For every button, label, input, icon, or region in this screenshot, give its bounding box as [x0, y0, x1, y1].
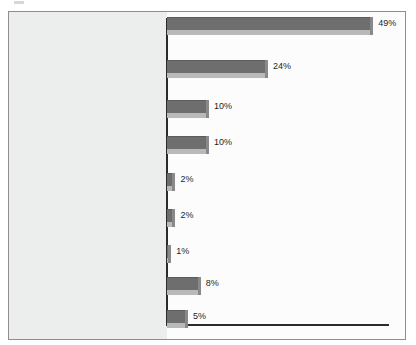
- bar-end-cap: [172, 173, 175, 191]
- value-label: 1%: [176, 246, 189, 256]
- bar: [167, 100, 209, 119]
- bar-end-cap: [265, 60, 268, 78]
- bar-end-cap: [370, 17, 373, 35]
- bar-shadow: [167, 73, 268, 78]
- bar-end-cap: [185, 310, 188, 328]
- bar-shadow: [167, 30, 373, 35]
- bar-end-cap: [172, 209, 175, 227]
- bar: [167, 173, 175, 192]
- bar-end-cap: [206, 136, 209, 154]
- bar-face: [167, 17, 373, 31]
- bar-face: [167, 136, 209, 150]
- bar-face: [167, 100, 209, 114]
- value-label: 24%: [273, 61, 291, 71]
- value-axis-line: [166, 324, 389, 326]
- value-label: 10%: [214, 137, 232, 147]
- scan-artifact: [14, 1, 24, 4]
- value-label: 2%: [180, 210, 193, 220]
- bar-chart-figure: Beliefs that living together was wrong/R…: [0, 0, 416, 345]
- value-label: 49%: [378, 18, 396, 28]
- value-label: 8%: [206, 278, 219, 288]
- bar: [167, 277, 201, 296]
- bar: [167, 310, 188, 329]
- bar-face: [167, 60, 268, 74]
- bar-shadow: [167, 290, 201, 295]
- bar: [167, 245, 171, 264]
- value-label: 10%: [214, 101, 232, 111]
- value-label: 2%: [180, 174, 193, 184]
- bar: [167, 209, 175, 228]
- value-label: 5%: [193, 311, 206, 321]
- plot-area: Beliefs that living together was wrong/R…: [9, 12, 405, 339]
- bar: [167, 60, 268, 79]
- chart-frame: Beliefs that living together was wrong/R…: [8, 11, 406, 340]
- bar-end-cap: [198, 277, 201, 295]
- bar-shadow: [167, 113, 209, 118]
- bar-face: [167, 277, 201, 291]
- bar-end-cap: [206, 100, 209, 118]
- bar-end-cap: [168, 245, 171, 263]
- bar: [167, 17, 373, 36]
- bar-shadow: [167, 149, 209, 154]
- bar: [167, 136, 209, 155]
